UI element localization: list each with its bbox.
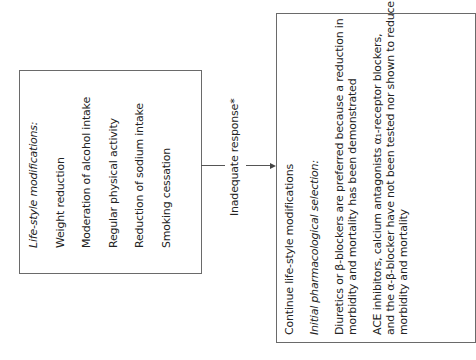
inadequate-response-label-wrap: Inadequate response* (228, 86, 241, 216)
lifestyle-item-alcohol: Moderation of alcohol intake (80, 73, 93, 248)
connector-line-left (201, 165, 225, 166)
connector-line-right (246, 165, 270, 166)
lifestyle-heading: Life-style modifications: (27, 73, 40, 248)
continue-lifestyle-text: Continue life-style modifications (283, 16, 296, 335)
diuretics-text-line-2: morbidity and mortality has been demonst… (346, 16, 359, 335)
diuretics-text-line-1: Diuretics or β-blockers are preferred be… (333, 16, 346, 335)
lifestyle-item-smoking: Smoking cessation (160, 73, 173, 248)
ace-text-line-2: and the α-β-blocker have not been tested… (384, 16, 397, 335)
lifestyle-item-activity: Regular physical activity (107, 73, 120, 248)
lifestyle-modifications-content: Life-style modifications: Weight reducti… (27, 73, 173, 273)
lifestyle-item-weight: Weight reduction (54, 73, 67, 248)
lifestyle-item-sodium: Reduction of sodium intake (133, 73, 146, 248)
inadequate-response-label: Inadequate response* (228, 86, 241, 216)
pharmacological-heading: Initial pharmacological selection: (308, 16, 321, 335)
ace-text-line-3: morbidity and mortality (397, 16, 410, 335)
ace-text-line-1: ACE inhibitors, calcium antagonists α₁-r… (371, 16, 384, 335)
pharmacological-selection-content: Continue life-style modifications Initia… (283, 16, 410, 342)
